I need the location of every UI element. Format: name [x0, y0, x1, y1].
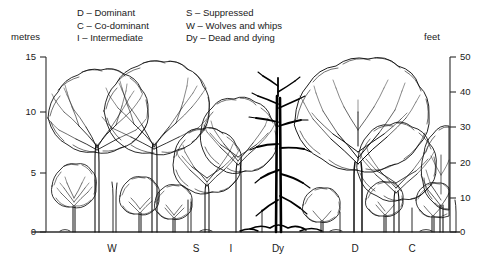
- whip-stems: [112, 182, 456, 232]
- figure-canvas: D – Dominant C – Co-dominant I – Interme…: [0, 0, 488, 264]
- tree-crown-wolf-right: [102, 61, 210, 232]
- tree-crown-intermediate: [200, 97, 277, 232]
- tree-crown-edge-right: [421, 126, 449, 232]
- tree-crown-suppressed-b: [119, 177, 159, 232]
- tree-crown-wolf-left: [48, 69, 148, 232]
- tree-crown-suppressed-a: [51, 164, 96, 232]
- tree-crown-understorey-e: [365, 182, 403, 233]
- tree-crown-understorey-d: [302, 188, 340, 233]
- tree-crown-understorey-f: [416, 183, 449, 233]
- tree-crown-suppressed-c: [154, 185, 192, 233]
- forest-profile-drawing: [0, 0, 488, 264]
- tree-dead-and-dying: [240, 72, 322, 232]
